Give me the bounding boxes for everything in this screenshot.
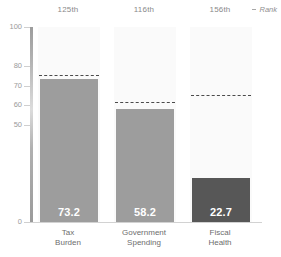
y-tick-mark (24, 66, 30, 67)
y-tick-label: 60 (14, 100, 22, 109)
category-label-government-spending: Government Spending (106, 228, 182, 247)
bar-government-spending[interactable]: 58.2 (116, 109, 174, 223)
y-tick-70: 70 (0, 86, 30, 87)
bar-chart: 125th 116th 156th Rank 100 80 70 60 (0, 0, 281, 257)
x-axis-baseline (30, 222, 262, 223)
legend-label-rank: Rank (259, 5, 277, 14)
rank-row: 125th 116th 156th Rank (0, 0, 281, 22)
y-tick-100: 100 (0, 27, 30, 28)
dashed-line-marker-icon (252, 9, 256, 10)
rank-label-government-spending: 116th (106, 5, 182, 14)
category-label-tax-burden: Tax Burden (30, 228, 106, 247)
y-tick-label: 50 (14, 120, 22, 129)
y-tick-mark (24, 27, 30, 28)
y-tick-mark (24, 105, 30, 106)
y-tick-50: 50 (0, 125, 30, 126)
y-tick-label: 0 (18, 217, 22, 226)
y-tick-label: 100 (9, 22, 22, 31)
bar-value-label: 58.2 (116, 206, 174, 218)
y-tick-mark (24, 86, 30, 87)
rank-refline-government-spending (115, 102, 175, 103)
y-tick-0: 0 (0, 222, 30, 223)
legend: Rank (252, 5, 277, 14)
rank-label-fiscal-health: 156th (182, 5, 258, 14)
bar-fiscal-health[interactable]: 22.7 (192, 178, 250, 222)
y-tick-mark (24, 125, 30, 126)
rank-refline-fiscal-health (191, 95, 251, 96)
rank-refline-tax-burden (39, 75, 99, 76)
y-tick-60: 60 (0, 105, 30, 106)
plot-area: 100 80 70 60 50 0 73.2 58. (30, 27, 258, 222)
bar-tax-burden[interactable]: 73.2 (40, 79, 98, 222)
y-tick-label: 70 (14, 81, 22, 90)
rank-label-tax-burden: 125th (30, 5, 106, 14)
y-tick-80: 80 (0, 66, 30, 67)
bar-value-label: 73.2 (40, 206, 98, 218)
bar-value-label: 22.7 (192, 206, 250, 218)
y-tick-label: 80 (14, 61, 22, 70)
category-label-fiscal-health: Fiscal Health (182, 228, 258, 247)
